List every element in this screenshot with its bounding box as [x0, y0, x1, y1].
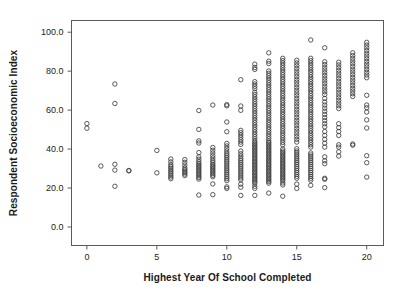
x-tick-label: 15 — [292, 252, 302, 262]
data-point — [211, 182, 215, 186]
data-point — [239, 108, 243, 112]
data-point — [281, 194, 285, 198]
y-tick-label: 80.0 — [46, 66, 64, 76]
data-point — [85, 121, 89, 125]
data-point — [365, 110, 369, 114]
data-points — [85, 38, 369, 199]
plot-svg: 0.020.040.060.080.0100.005101520Highest … — [0, 0, 405, 298]
y-tick-label: 20.0 — [46, 183, 64, 193]
data-point — [365, 93, 369, 97]
data-point — [323, 185, 327, 189]
data-point — [197, 193, 201, 197]
data-point — [197, 127, 201, 131]
data-point — [295, 182, 299, 186]
y-tick-label: 0.0 — [51, 222, 64, 232]
data-point — [113, 82, 117, 86]
data-point — [365, 153, 369, 157]
x-tick-label: 0 — [84, 252, 89, 262]
data-point — [211, 103, 215, 107]
data-point — [85, 126, 89, 130]
data-point — [99, 164, 103, 168]
data-point — [351, 94, 355, 98]
data-point — [197, 108, 201, 112]
x-axis: 05101520 — [84, 246, 371, 263]
data-point — [225, 120, 229, 124]
data-point — [365, 76, 369, 80]
x-tick-label: 5 — [154, 252, 159, 262]
x-tick-label: 10 — [222, 252, 232, 262]
data-point — [113, 101, 117, 105]
data-point — [365, 106, 369, 110]
data-point — [155, 148, 159, 152]
data-point — [365, 161, 369, 165]
data-point — [197, 150, 201, 154]
data-point — [267, 191, 271, 195]
y-tick-label: 100.0 — [41, 27, 64, 37]
y-tick-label: 60.0 — [46, 105, 64, 115]
y-axis: 0.020.040.060.080.0100.0 — [41, 27, 72, 232]
data-point — [337, 106, 341, 110]
scatter-chart: 0.020.040.060.080.0100.005101520Highest … — [0, 0, 405, 298]
y-axis-title: Respondent Socioeconomic Index — [8, 49, 19, 216]
data-point — [211, 192, 215, 196]
data-point — [365, 118, 369, 122]
data-point — [239, 78, 243, 82]
data-point — [323, 161, 327, 165]
data-point — [309, 183, 313, 187]
data-point — [239, 193, 243, 197]
data-point — [323, 125, 327, 129]
data-point — [113, 184, 117, 188]
data-point — [337, 150, 341, 154]
x-tick-label: 20 — [362, 252, 372, 262]
data-point — [295, 186, 299, 190]
data-point — [365, 126, 369, 130]
data-point — [239, 104, 243, 108]
data-point — [113, 168, 117, 172]
y-tick-label: 40.0 — [46, 144, 64, 154]
data-point — [323, 46, 327, 50]
data-point — [253, 193, 257, 197]
x-axis-title: Highest Year Of School Completed — [143, 272, 311, 283]
data-point — [365, 175, 369, 179]
data-point — [309, 38, 313, 42]
data-point — [225, 130, 229, 134]
data-point — [337, 154, 341, 158]
data-point — [155, 171, 159, 175]
data-point — [113, 162, 117, 166]
data-point — [239, 185, 243, 189]
data-point — [267, 51, 271, 55]
data-point — [295, 140, 299, 144]
